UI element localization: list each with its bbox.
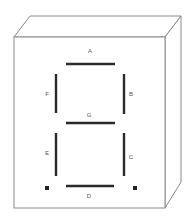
- decimal-point-left: [45, 186, 49, 190]
- label-d: D: [87, 193, 91, 199]
- label-a: A: [88, 48, 92, 54]
- seven-segment-diagram: A B C D E F G: [0, 0, 194, 222]
- housing-side-face: [165, 16, 181, 208]
- label-e: E: [45, 150, 49, 156]
- label-c: C: [129, 154, 133, 160]
- decimal-point-right: [133, 186, 137, 190]
- label-f: F: [45, 91, 49, 97]
- label-b: B: [129, 91, 133, 97]
- display-housing: [0, 0, 194, 222]
- label-g: G: [87, 112, 92, 118]
- housing-top-face: [14, 16, 181, 37]
